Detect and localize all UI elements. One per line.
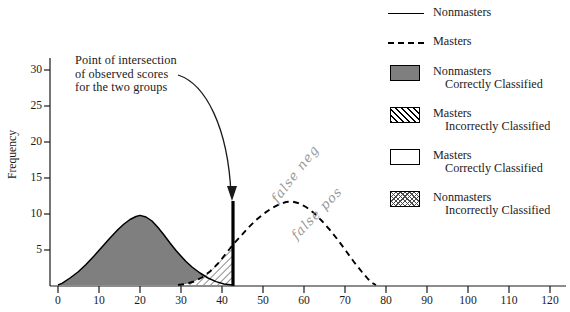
legend-item-nonmasters-correct[interactable]: Nonmasters Correctly Classified bbox=[388, 63, 543, 92]
y-tick-label: 10 bbox=[20, 207, 42, 220]
legend-label: Masters bbox=[433, 148, 472, 162]
y-tick-label: 15 bbox=[20, 171, 42, 184]
legend-item-nonmasters-line[interactable]: Nonmasters bbox=[388, 4, 491, 24]
legend-item-masters-line[interactable]: Masters bbox=[388, 33, 472, 53]
intersection-annotation: Point of intersection of observed scores… bbox=[75, 54, 225, 95]
legend-label: Masters bbox=[433, 106, 472, 120]
figure-root: Frequency 30 25 20 15 10 5 0 10 20 30 40… bbox=[0, 0, 570, 312]
region-nonmasters-correct bbox=[50, 100, 233, 286]
y-axis-label: Frequency bbox=[6, 120, 19, 190]
legend-key-crosshatch-fill-icon bbox=[388, 189, 424, 209]
y-tick-label: 5 bbox=[20, 243, 42, 256]
legend-key-hatch-fill-icon bbox=[388, 105, 424, 125]
legend-key-solid-fill-icon bbox=[388, 63, 424, 83]
legend-label: Nonmasters bbox=[433, 5, 491, 19]
legend-key-dashed-line-icon bbox=[388, 33, 424, 53]
legend-sublabel: Incorrectly Classified bbox=[433, 120, 550, 133]
annotation-line-2: of observed scores bbox=[75, 68, 225, 82]
legend-sublabel: Correctly Classified bbox=[433, 162, 543, 175]
legend-label: Nonmasters bbox=[433, 190, 491, 204]
legend-label: Masters bbox=[433, 34, 472, 48]
legend-key-solid-line-icon bbox=[388, 4, 424, 24]
region-nonmasters-incorrect bbox=[233, 190, 283, 286]
curve-masters bbox=[178, 202, 376, 286]
legend-label: Nonmasters bbox=[433, 64, 491, 78]
legend-sublabel: Correctly Classified bbox=[433, 78, 543, 91]
figure-caption bbox=[8, 303, 564, 312]
legend-sublabel: Incorrectly Classified bbox=[433, 204, 550, 217]
annotation-line-3: for the two groups bbox=[75, 81, 225, 95]
legend-item-masters-incorrect[interactable]: Masters Incorrectly Classified bbox=[388, 105, 550, 134]
x-ticks bbox=[58, 286, 550, 293]
legend-key-white-fill-icon bbox=[388, 147, 424, 167]
y-tick-label: 20 bbox=[20, 135, 42, 148]
y-ticks bbox=[44, 70, 50, 250]
legend-item-masters-correct[interactable]: Masters Correctly Classified bbox=[388, 147, 543, 176]
annotation-arrowhead bbox=[227, 186, 237, 201]
annotation-line-1: Point of intersection bbox=[75, 54, 225, 68]
y-tick-label: 25 bbox=[20, 99, 42, 112]
legend-item-nonmasters-incorrect[interactable]: Nonmasters Incorrectly Classified bbox=[388, 189, 550, 218]
y-tick-label: 30 bbox=[20, 63, 42, 76]
